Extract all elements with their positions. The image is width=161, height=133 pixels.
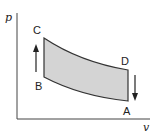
arrow-up-icon — [33, 44, 39, 72]
arrow-down-icon — [132, 75, 138, 101]
point-label-b: B — [35, 80, 42, 92]
point-label-d: D — [121, 55, 129, 67]
cycle-region — [44, 38, 128, 101]
point-label-c: C — [33, 24, 41, 36]
x-axis-label: v — [143, 121, 150, 133]
point-label-a: A — [123, 105, 131, 117]
pv-diagram: p v C B D A — [0, 0, 161, 133]
y-axis-label: p — [5, 11, 12, 24]
